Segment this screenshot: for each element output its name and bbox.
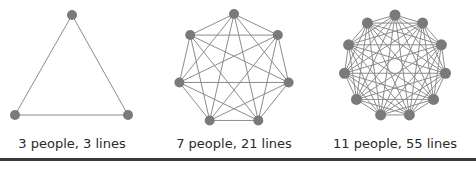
caption-11-people: 11 people, 55 lines	[328, 136, 462, 151]
connection-line	[190, 14, 234, 35]
connection-line	[356, 23, 422, 99]
caption-3-people: 3 people, 3 lines	[12, 136, 132, 151]
person-node	[362, 18, 373, 29]
bottom-rule-divider	[0, 158, 476, 161]
connection-line	[15, 15, 72, 115]
connection-line	[190, 35, 288, 82]
person-node	[229, 9, 239, 19]
person-node	[428, 94, 439, 105]
person-node	[185, 30, 195, 40]
person-node	[339, 68, 350, 79]
connection-line	[179, 35, 277, 82]
person-node	[436, 39, 447, 50]
person-node	[375, 109, 386, 120]
person-node	[174, 77, 184, 87]
person-node	[10, 110, 20, 120]
connection-line	[349, 45, 446, 73]
caption-7-people: 7 people, 21 lines	[172, 136, 296, 151]
connection-line	[72, 15, 128, 115]
person-node	[273, 30, 283, 40]
graph-11-people	[339, 10, 451, 121]
person-node	[284, 77, 294, 87]
connection-line	[367, 23, 433, 99]
connection-line	[179, 82, 258, 120]
person-node	[351, 94, 362, 105]
person-node	[417, 18, 428, 29]
person-node	[253, 115, 263, 125]
person-node	[205, 115, 215, 125]
connection-line	[210, 82, 289, 120]
person-node	[123, 110, 133, 120]
graph-3-people	[10, 10, 133, 120]
person-node	[404, 109, 415, 120]
connection-line	[234, 14, 278, 35]
person-node	[67, 10, 77, 20]
graph-7-people	[174, 9, 293, 125]
connection-line	[345, 45, 442, 73]
person-node	[343, 39, 354, 50]
person-node	[390, 10, 401, 21]
person-node	[440, 68, 451, 79]
